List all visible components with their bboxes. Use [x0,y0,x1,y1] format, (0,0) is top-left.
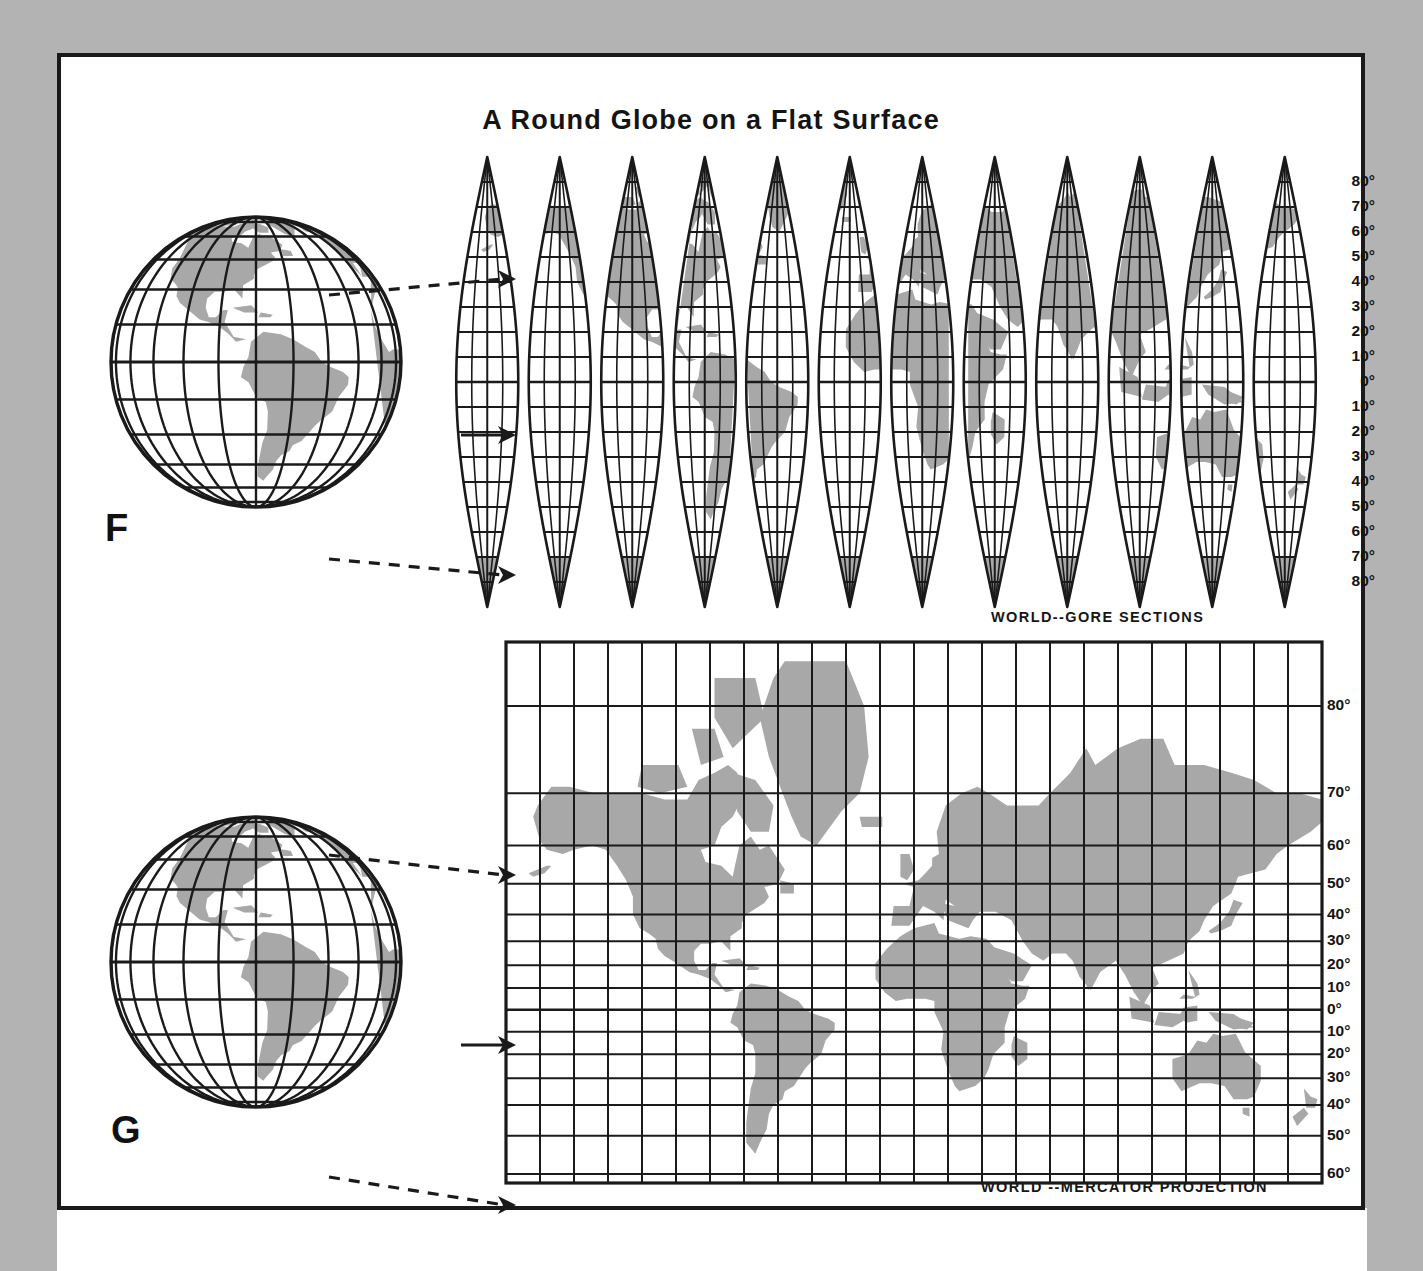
gore-lat-label: 20° [1329,422,1375,440]
gore-lat-label: 40° [1329,472,1375,490]
gore-lat-label: 10° [1329,397,1375,415]
gore-lat-label: 60° [1329,222,1375,240]
mercator-lat-label: 0° [1327,1000,1342,1018]
gore-lat-label: 80° [1329,172,1375,190]
gore-lat-label: 70° [1329,547,1375,565]
mercator-lat-label: 30° [1327,1068,1350,1086]
mercator-lat-label: 80° [1327,696,1350,714]
gore-lat-label: 10° [1329,347,1375,365]
gore-lat-label: 60° [1329,522,1375,540]
gore-lat-label: 20° [1329,322,1375,340]
mercator-lat-label: 10° [1327,1022,1350,1040]
mercator-lat-label: 60° [1327,1164,1350,1182]
mercator-lat-label: 40° [1327,905,1350,923]
gore-lat-label: 30° [1329,447,1375,465]
arrow-north-mercator [311,777,531,1227]
mercator-map [444,640,1324,1185]
gore-lat-label: 0° [1329,372,1375,390]
page-title: A Round Globe on a Flat Surface [61,105,1361,136]
page-bottom-band [57,1208,1367,1271]
mercator-lat-label: 20° [1327,955,1350,973]
gore-lat-label: 30° [1329,297,1375,315]
mercator-lat-label: 60° [1327,836,1350,854]
gore-lat-label: 40° [1329,272,1375,290]
mercator-lat-label: 40° [1327,1095,1350,1113]
figure-frame: A Round Globe on a Flat Surface F G WORL… [57,53,1365,1210]
mercator-lat-label: 10° [1327,978,1350,996]
gore-lat-label: 70° [1329,197,1375,215]
mercator-lat-label: 70° [1327,783,1350,801]
arrow-north-gore [311,187,531,647]
mercator-lat-label: 50° [1327,874,1350,892]
gore-lat-label: 80° [1329,572,1375,590]
gore-sections-map [451,147,1321,617]
gore-lat-label: 50° [1329,247,1375,265]
figure-page: A Round Globe on a Flat Surface F G WORL… [0,0,1423,1271]
mercator-lat-label: 30° [1327,931,1350,949]
mercator-lat-label: 50° [1327,1126,1350,1144]
gore-lat-label: 50° [1329,497,1375,515]
mercator-lat-label: 20° [1327,1044,1350,1062]
